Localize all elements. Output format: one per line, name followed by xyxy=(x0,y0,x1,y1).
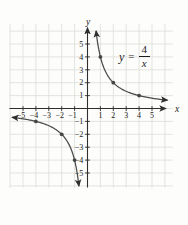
third-quadrant-branch xyxy=(12,117,79,186)
y-tick-label: −1 xyxy=(75,117,84,126)
equation-equals-sign: = xyxy=(128,51,134,62)
data-point xyxy=(137,94,141,98)
x-tick-label: 4 xyxy=(137,111,141,120)
x-tick-label: 1 xyxy=(98,111,102,120)
x-tick-label: −4 xyxy=(30,111,39,120)
x-axis-label: x xyxy=(174,104,180,114)
x-tick-label: −3 xyxy=(43,111,52,120)
y-tick-label: −2 xyxy=(75,130,84,139)
y-tick-label: 3 xyxy=(79,66,83,75)
y-tick-label: 1 xyxy=(79,91,83,100)
equation-fraction: 4 x xyxy=(139,44,151,69)
data-point xyxy=(99,55,103,59)
x-tick-label: 3 xyxy=(124,111,128,120)
y-tick-label: 4 xyxy=(79,53,83,62)
y-tick-label: −3 xyxy=(75,143,84,152)
graph-figure: −5−4−3−2−112345−5−4−3−2−112345xy y = 4 x xyxy=(0,0,188,225)
y-tick-label: 5 xyxy=(79,40,83,49)
data-point xyxy=(60,132,64,136)
y-axis-label: y xyxy=(85,17,91,27)
data-point xyxy=(111,81,115,85)
equation-numerator: 4 xyxy=(139,44,151,57)
x-tick-label: −2 xyxy=(55,111,64,120)
equation-lhs: y xyxy=(119,51,124,63)
x-tick-label: 2 xyxy=(111,111,115,120)
equation-label: y = 4 x xyxy=(119,44,150,69)
hyperbola-plot-canvas: −5−4−3−2−112345−5−4−3−2−112345xy xyxy=(0,0,188,225)
data-point xyxy=(73,158,77,162)
x-tick-label: 5 xyxy=(150,111,154,120)
y-tick-label: 2 xyxy=(79,78,83,87)
data-point xyxy=(34,120,38,124)
equation-denominator: x xyxy=(142,57,147,69)
